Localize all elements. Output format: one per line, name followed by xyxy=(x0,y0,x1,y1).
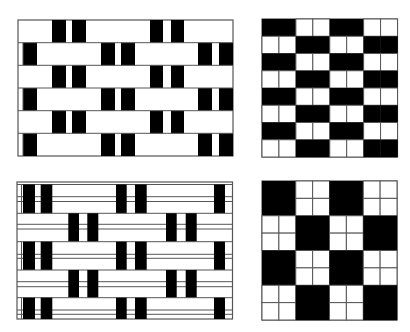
white-cell xyxy=(381,88,398,105)
white-cell xyxy=(296,19,313,36)
black-cell xyxy=(330,251,364,286)
white-subcell xyxy=(346,285,363,302)
black-bar xyxy=(214,185,225,214)
white-subcell xyxy=(363,181,380,198)
white-subcell xyxy=(330,285,347,302)
black-bar xyxy=(23,43,37,66)
black-bar xyxy=(23,133,37,156)
black-bar xyxy=(87,213,98,241)
black-cell xyxy=(347,54,364,72)
black-cell xyxy=(330,123,347,141)
black-cell xyxy=(313,140,330,158)
black-bar xyxy=(198,43,212,66)
black-cell xyxy=(296,71,313,89)
white-cell xyxy=(279,71,296,88)
black-bar xyxy=(150,65,163,88)
white-cell xyxy=(364,54,381,71)
black-cell xyxy=(313,105,330,123)
black-cell xyxy=(262,19,279,37)
white-subcell xyxy=(313,268,330,285)
white-subcell xyxy=(279,233,296,250)
white-cell xyxy=(313,88,330,105)
black-bar xyxy=(186,213,197,241)
white-subcell xyxy=(380,198,397,215)
black-bar xyxy=(171,111,184,134)
black-bar xyxy=(72,65,86,88)
white-cell xyxy=(364,123,381,140)
black-cell xyxy=(296,140,313,158)
black-cell xyxy=(296,36,313,54)
black-bar xyxy=(116,242,127,270)
white-cell xyxy=(381,54,398,71)
black-bar xyxy=(72,111,86,134)
black-cell xyxy=(330,19,347,37)
weave-pattern-diagram xyxy=(0,0,410,332)
white-cell xyxy=(313,123,330,140)
white-subcell xyxy=(330,233,347,250)
black-cell xyxy=(330,88,347,106)
white-subcell xyxy=(262,285,279,302)
white-cell xyxy=(330,105,347,122)
black-bar xyxy=(171,65,184,88)
black-cell xyxy=(364,105,381,123)
checker-8x8-pattern xyxy=(262,19,398,157)
black-cell xyxy=(313,71,330,89)
black-cell xyxy=(347,19,364,37)
black-bar xyxy=(41,185,53,214)
black-bar xyxy=(23,88,37,111)
black-cell xyxy=(381,140,398,158)
black-cell xyxy=(262,181,296,216)
white-cell xyxy=(296,123,313,140)
white-cell xyxy=(381,19,398,36)
white-cell xyxy=(279,140,296,157)
white-cell xyxy=(347,71,364,88)
black-bar xyxy=(68,213,79,241)
checker-4x4-subdivided-pattern xyxy=(262,181,397,320)
white-subcell xyxy=(380,268,397,285)
black-cell xyxy=(363,216,397,251)
black-cell xyxy=(296,216,330,251)
black-bar xyxy=(198,133,212,156)
black-cell xyxy=(262,54,279,72)
white-subcell xyxy=(363,268,380,285)
white-subcell xyxy=(330,216,347,233)
black-bar xyxy=(41,298,53,319)
black-cell xyxy=(381,36,398,54)
white-cell xyxy=(279,105,296,122)
plain-weave-bars-pattern xyxy=(18,20,233,156)
black-cell xyxy=(364,71,381,89)
black-bar xyxy=(214,242,225,270)
black-cell xyxy=(313,36,330,54)
white-cell xyxy=(313,19,330,36)
white-cell xyxy=(313,54,330,71)
white-cell xyxy=(364,88,381,105)
black-bar xyxy=(23,185,35,214)
striped-weave-bars-pattern xyxy=(17,182,233,319)
black-bar xyxy=(23,298,35,319)
white-cell xyxy=(262,140,279,157)
black-cell xyxy=(262,88,279,106)
black-cell xyxy=(347,88,364,106)
black-cell xyxy=(279,19,296,37)
black-bar xyxy=(121,88,135,111)
black-bar xyxy=(171,20,184,43)
black-cell xyxy=(381,105,398,123)
white-subcell xyxy=(330,303,347,320)
white-cell xyxy=(262,71,279,88)
black-bar xyxy=(41,242,53,270)
white-subcell xyxy=(346,303,363,320)
white-subcell xyxy=(262,216,279,233)
black-cell xyxy=(296,105,313,123)
white-subcell xyxy=(380,181,397,198)
white-subcell xyxy=(313,181,330,198)
white-subcell xyxy=(346,216,363,233)
black-bar xyxy=(219,88,233,111)
black-bar xyxy=(166,270,177,298)
black-bar xyxy=(150,111,163,134)
white-cell xyxy=(262,105,279,122)
black-cell xyxy=(381,71,398,89)
black-cell xyxy=(347,123,364,141)
white-cell xyxy=(279,36,296,53)
white-subcell xyxy=(346,233,363,250)
black-bar xyxy=(52,20,66,43)
